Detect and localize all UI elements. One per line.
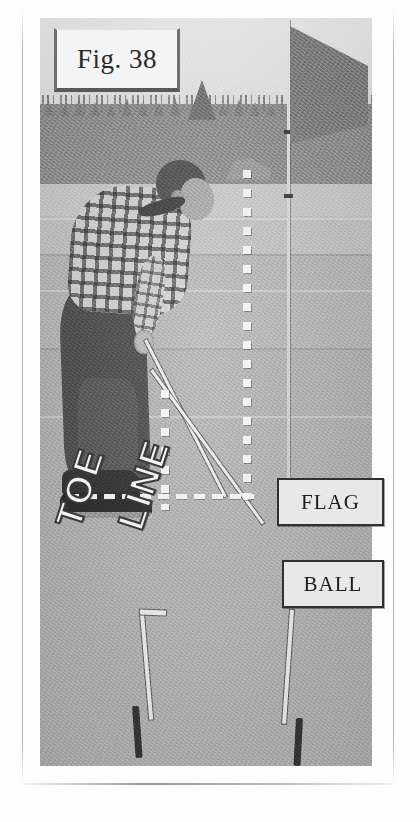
center-conifer-tree <box>188 80 216 120</box>
toe-line-club-head <box>140 610 166 616</box>
flagstick-band <box>284 194 293 198</box>
figure-caption-box: Fig. 38 <box>54 28 180 92</box>
flag-label-box: FLAG <box>277 478 384 526</box>
scanned-page: TOE LINE FLAG BALL Fig. 38 <box>0 0 420 822</box>
figure-photograph <box>40 18 372 766</box>
page-edge-left-line <box>22 8 23 784</box>
ball-line-dotted-vertical <box>243 170 251 500</box>
flagstick-pole <box>287 20 290 488</box>
golfer-face <box>180 178 214 220</box>
ball-label-box: BALL <box>282 560 384 608</box>
page-edge-bottom-line <box>24 783 392 785</box>
page-edge-right-line <box>393 8 394 784</box>
